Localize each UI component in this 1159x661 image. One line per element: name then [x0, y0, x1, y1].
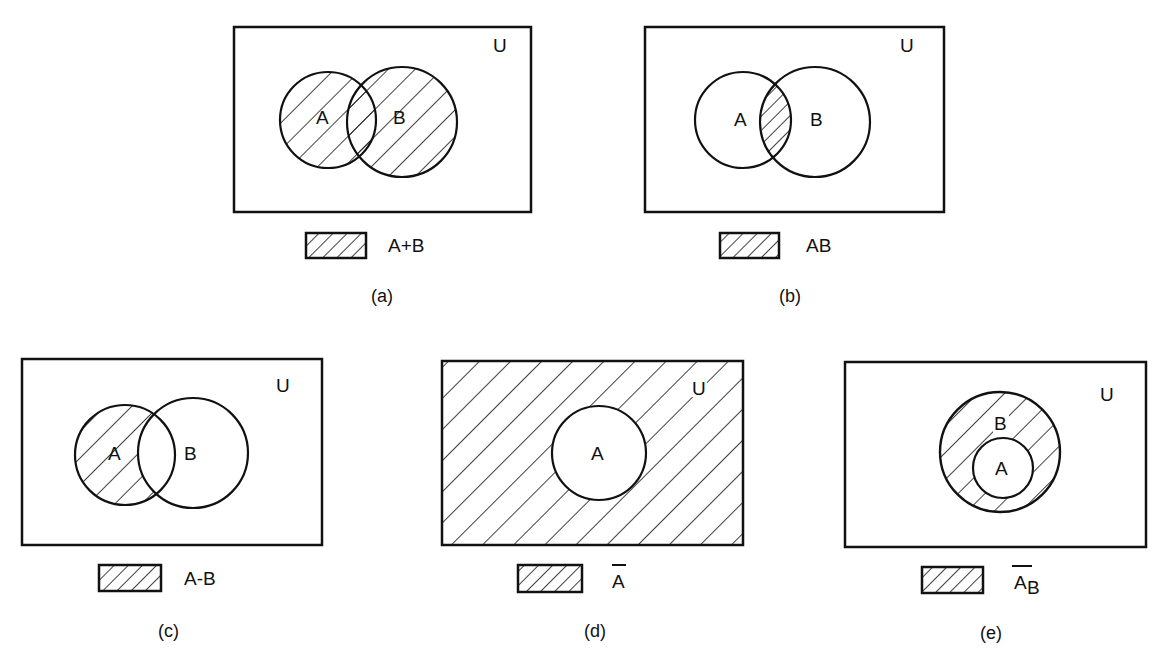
legend-swatch: [99, 565, 161, 591]
universe-label: U: [900, 35, 914, 56]
panel-d: U A A (d): [442, 361, 743, 641]
set-a-label: A: [316, 107, 329, 128]
panel-a: U A B A+B (a): [234, 27, 531, 306]
universe-label: U: [1100, 384, 1114, 405]
set-a-label: A: [591, 443, 604, 464]
legend-label: A: [612, 571, 625, 592]
panel-c: U A B A-B (c): [22, 359, 322, 641]
legend-swatch: [518, 565, 582, 592]
set-b-label: B: [184, 443, 197, 464]
universe-label: U: [493, 35, 507, 56]
set-a-label: A: [734, 109, 747, 130]
legend-subscript: B: [1027, 577, 1040, 598]
legend-label: AB: [806, 235, 831, 256]
legend-label: A: [1014, 572, 1027, 593]
panel-b: U A B AB (b): [645, 27, 944, 306]
venn-figure: U A B A+B (a) U A B AB (b) U A B A-B (c): [0, 0, 1159, 661]
set-b-label: B: [393, 107, 406, 128]
panel-caption: (e): [980, 623, 1002, 643]
legend-label: A+B: [388, 235, 424, 256]
universe-label: U: [276, 375, 290, 396]
legend-swatch: [306, 233, 366, 258]
legend-swatch: [922, 567, 983, 593]
set-a-label: A: [108, 443, 121, 464]
set-b-label: B: [810, 109, 823, 130]
legend-swatch: [720, 233, 779, 258]
panel-caption: (b): [779, 286, 801, 306]
set-a-label: A: [995, 458, 1008, 479]
legend-label: A-B: [184, 568, 216, 589]
panel-e: U B A A B (e): [845, 362, 1146, 643]
panel-caption: (a): [371, 286, 393, 306]
panel-caption: (d): [584, 621, 606, 641]
universe-label: U: [692, 378, 706, 399]
panel-caption: (c): [158, 621, 179, 641]
set-b-label: B: [994, 413, 1007, 434]
